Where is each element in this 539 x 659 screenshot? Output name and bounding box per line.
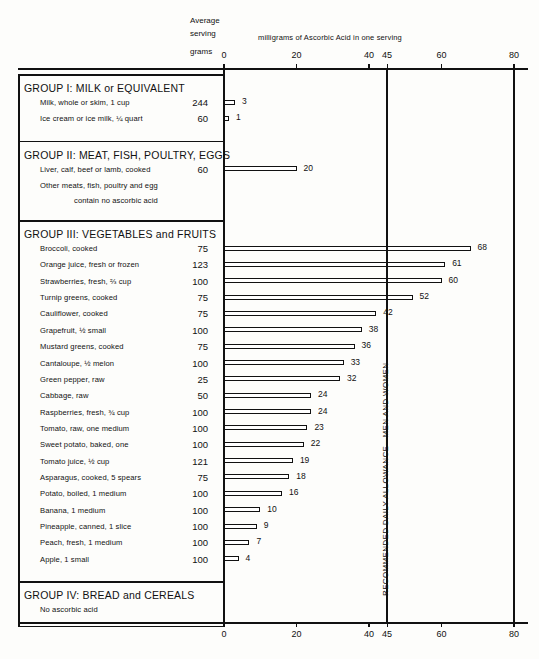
item-value-label: 24 — [318, 406, 327, 416]
item-value-label: 22 — [311, 438, 320, 448]
axis-tick-bottom-45 — [387, 623, 388, 627]
item-grams: 60 — [168, 113, 208, 124]
axis-tick-label-top-80: 80 — [509, 50, 519, 60]
item-label: Tomato, raw, one medium — [40, 424, 129, 433]
item-label: Ice cream or ice milk, ¼ quart — [40, 114, 143, 123]
average-serving-header: Averageservinggrams — [190, 14, 250, 58]
group-title-0: GROUP I: MILK or EQUIVALENT — [24, 82, 185, 94]
item-value-label: 3 — [242, 96, 247, 106]
item-grams: 100 — [168, 325, 208, 336]
item-value-label: 38 — [369, 324, 378, 334]
axis-tick-label-top-0: 0 — [221, 50, 226, 60]
item-label: Cantaloupe, ½ melon — [40, 359, 114, 368]
item-value-label: 60 — [449, 275, 458, 285]
item-bar — [224, 556, 239, 561]
item-value-label: 52 — [420, 291, 429, 301]
item-value-label: 61 — [452, 258, 461, 268]
item-bar — [224, 458, 293, 463]
item-bar — [224, 474, 289, 479]
item-grams: 100 — [168, 439, 208, 450]
item-bar — [224, 327, 362, 332]
axis-tick-top-20 — [296, 64, 297, 68]
item-grams: 75 — [168, 292, 208, 303]
item-label: Turnip greens, cooked — [40, 293, 117, 302]
item-value-label: 68 — [478, 242, 487, 252]
group-note: Other meats, fish, poultry and egg — [40, 181, 158, 190]
item-bar — [224, 278, 442, 283]
axis-tick-label-bottom-20: 20 — [291, 629, 301, 639]
item-value-label: 10 — [267, 504, 276, 514]
frame-left-border — [18, 74, 20, 626]
item-value-label: 36 — [362, 340, 371, 350]
item-grams: 50 — [168, 390, 208, 401]
item-bar — [224, 524, 257, 529]
group-note: contain no ascorbic acid — [74, 196, 158, 205]
item-label: Cauliflower, cooked — [40, 309, 108, 318]
item-label: Broccoli, cooked — [40, 244, 97, 253]
item-grams: 25 — [168, 374, 208, 385]
frame-right-line — [513, 68, 515, 622]
group-title-2: GROUP III: VEGETABLES and FRUITS — [24, 228, 216, 240]
item-label: Apple, 1 small — [40, 555, 89, 564]
item-bar — [224, 442, 304, 447]
rda-label: RECOMMENDED DAILY ALLOWANCE—MEN AND WOME… — [381, 363, 390, 596]
group-title-3: GROUP IV: BREAD and CEREALS — [24, 589, 195, 601]
item-grams: 100 — [168, 423, 208, 434]
item-grams: 75 — [168, 308, 208, 319]
avg-serving-line-2: serving — [190, 27, 250, 40]
item-label: Orange juice, fresh or frozen — [40, 260, 139, 269]
group-separator-0 — [18, 74, 224, 76]
item-bar — [224, 540, 249, 545]
item-grams: 100 — [168, 407, 208, 418]
item-label: Liver, calf, beef or lamb, cooked — [40, 165, 151, 174]
item-bar — [224, 166, 297, 171]
item-grams: 100 — [168, 276, 208, 287]
group-separator-1 — [18, 141, 224, 143]
axis-tick-label-bottom-60: 60 — [436, 629, 446, 639]
item-value-label: 18 — [296, 471, 305, 481]
axis-tick-bottom-20 — [296, 623, 297, 627]
units-caption: milligrams of Ascorbic Acid in one servi… — [258, 33, 402, 42]
item-label: Pineapple, canned, 1 slice — [40, 522, 131, 531]
item-grams: 75 — [168, 243, 208, 254]
axis-tick-label-bottom-80: 80 — [509, 629, 519, 639]
item-label: Peach, fresh, 1 medium — [40, 538, 122, 547]
item-bar — [224, 116, 229, 121]
item-grams: 100 — [168, 521, 208, 532]
item-grams: 121 — [168, 456, 208, 467]
axis-tick-label-top-45: 45 — [382, 50, 392, 60]
item-label: Raspberries, fresh, ¾ cup — [40, 408, 129, 417]
item-bar — [224, 246, 471, 251]
item-label: Strawberries, fresh, ⅔ cup — [40, 277, 131, 286]
item-bar — [224, 425, 307, 430]
item-value-label: 24 — [318, 389, 327, 399]
axis-line-top — [18, 68, 528, 70]
axis-tick-label-top-40: 40 — [364, 50, 374, 60]
item-bar — [224, 409, 311, 414]
axis-tick-label-bottom-0: 0 — [221, 629, 226, 639]
item-bar — [224, 295, 413, 300]
item-bar — [224, 507, 260, 512]
item-label: Green pepper, raw — [40, 375, 105, 384]
axis-tick-top-40 — [368, 64, 369, 68]
axis-tick-label-top-20: 20 — [291, 50, 301, 60]
item-grams: 75 — [168, 341, 208, 352]
group-separator-3 — [18, 581, 224, 583]
ascorbic-acid-chart: Averageservinggramsmilligrams of Ascorbi… — [0, 0, 539, 659]
item-grams: 100 — [168, 358, 208, 369]
item-grams: 100 — [168, 537, 208, 548]
item-grams: 100 — [168, 505, 208, 516]
item-grams: 75 — [168, 472, 208, 483]
item-bar — [224, 100, 235, 105]
item-bar — [224, 393, 311, 398]
avg-serving-line-3: grams — [190, 45, 250, 58]
axis-tick-label-bottom-40: 40 — [364, 629, 374, 639]
item-value-label: 9 — [264, 520, 269, 530]
item-value-label: 32 — [347, 373, 356, 383]
item-grams: 244 — [168, 97, 208, 108]
item-label: Tomato juice, ½ cup — [40, 457, 109, 466]
axis-tick-label-bottom-45: 45 — [382, 629, 392, 639]
avg-serving-line-1: Average — [190, 14, 250, 27]
axis-line-bottom — [18, 622, 528, 624]
frame-bottom-rule — [18, 626, 224, 628]
